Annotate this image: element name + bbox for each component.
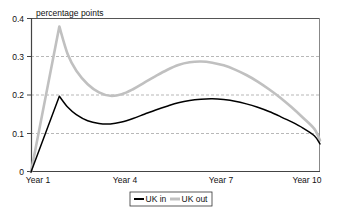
y-axis-label-0.2: 0.2 <box>12 90 24 100</box>
chart-title: percentage points <box>36 8 104 18</box>
y-axis-label-0.4: 0.4 <box>12 14 24 24</box>
y-axis-ticks <box>27 19 31 172</box>
y-axis-label-0.3: 0.3 <box>12 52 24 62</box>
x-axis-label-year-7: Year 7 <box>209 175 234 185</box>
x-axis-label-year-1: Year 1 <box>26 175 51 185</box>
chart-figure: 0.4 0.3 0.2 0.1 0 Year 1 Year 4 Year 7 Y… <box>0 0 342 217</box>
x-axis-label-year-4: Year 4 <box>113 175 138 185</box>
y-axis-label-0.1: 0.1 <box>12 129 24 139</box>
y-axis-label-0: 0 <box>19 167 24 177</box>
percentage-points-line-chart: 0.4 0.3 0.2 0.1 0 Year 1 Year 4 Year 7 Y… <box>0 0 342 217</box>
legend-label-uk-out: UK out <box>182 194 209 204</box>
chart-legend: UK in UK out <box>130 192 212 206</box>
legend-label-uk-in: UK in <box>146 194 167 204</box>
x-axis-label-year-10: Year 10 <box>293 175 322 185</box>
